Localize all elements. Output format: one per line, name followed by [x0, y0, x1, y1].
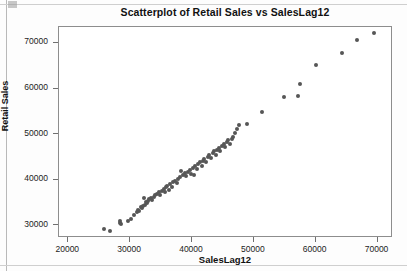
scatterplot-chart: Scatterplot of Retail Sales vs SalesLag1…: [0, 0, 407, 271]
data-point: [260, 110, 264, 114]
data-point: [184, 174, 188, 178]
data-point: [355, 38, 359, 42]
plot-frame: [58, 26, 392, 237]
data-point: [209, 156, 213, 160]
x-tick-mark: [191, 237, 192, 242]
y-tick-label: 60000: [0, 82, 48, 92]
x-tick-label: 30000: [117, 244, 141, 254]
data-point: [119, 222, 123, 226]
data-point: [298, 82, 302, 86]
data-point: [372, 31, 376, 35]
y-tick-label: 40000: [0, 173, 48, 183]
x-tick-mark: [67, 237, 68, 242]
data-point: [218, 149, 222, 153]
data-point: [296, 94, 300, 98]
data-point: [150, 198, 154, 202]
x-tick-mark: [315, 237, 316, 242]
x-tick-mark: [377, 237, 378, 242]
data-point: [108, 229, 112, 233]
x-tick-label: 50000: [241, 244, 265, 254]
data-points-layer: [59, 27, 391, 236]
data-point: [175, 181, 179, 185]
data-point: [235, 127, 239, 131]
data-point: [102, 227, 106, 231]
x-axis-title: SalesLag12: [58, 254, 392, 265]
data-point: [228, 142, 232, 146]
y-tick-label: 30000: [0, 219, 48, 229]
data-point: [192, 173, 196, 177]
data-point: [231, 135, 235, 139]
data-point: [340, 51, 344, 55]
x-tick-label: 70000: [365, 244, 389, 254]
data-point: [129, 217, 133, 221]
chart-title: Scatterplot of Retail Sales vs SalesLag1…: [58, 6, 392, 18]
data-point: [214, 153, 218, 157]
data-point: [233, 131, 237, 135]
x-tick-label: 60000: [303, 244, 327, 254]
data-point: [204, 160, 208, 164]
data-point: [200, 164, 204, 168]
data-point: [237, 123, 241, 127]
data-point: [170, 185, 174, 189]
x-tick-mark: [253, 237, 254, 242]
data-point: [282, 95, 286, 99]
data-point: [195, 167, 199, 171]
y-tick-label: 50000: [0, 128, 48, 138]
data-point: [223, 145, 227, 149]
data-point: [314, 63, 318, 67]
x-tick-label: 20000: [55, 244, 79, 254]
x-tick-mark: [129, 237, 130, 242]
y-tick-label: 70000: [0, 36, 48, 46]
data-point: [245, 122, 249, 126]
data-point: [158, 193, 162, 197]
x-tick-label: 40000: [179, 244, 203, 254]
